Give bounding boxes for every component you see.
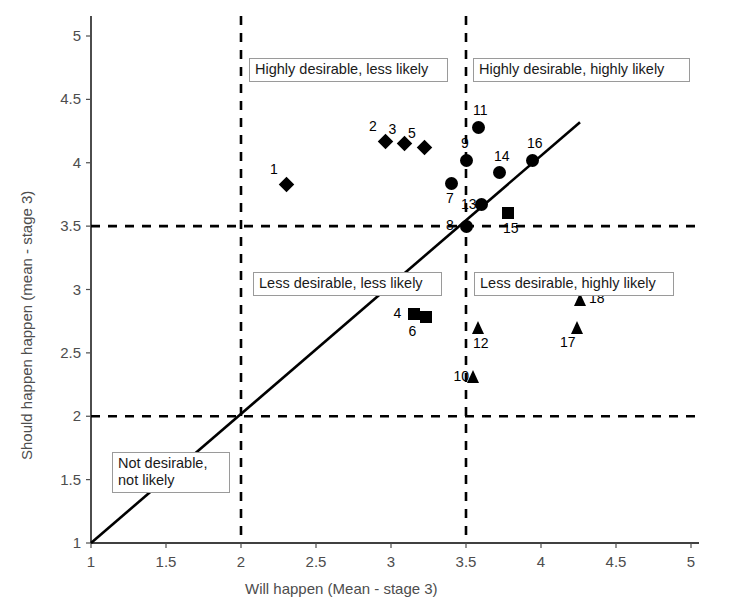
x-tick-label: 3.5	[436, 553, 496, 570]
data-point-label: 8	[446, 217, 454, 233]
quadrant-label-highly-desirable-less-likely: Highly desirable, less likely	[249, 58, 448, 82]
quadrant-label-less-desirable-less-likely: Less desirable, less likely	[253, 272, 442, 296]
data-point-square	[420, 311, 432, 323]
data-point-label: 17	[560, 334, 576, 350]
data-point-circle	[445, 177, 458, 190]
x-tick-label: 1	[61, 553, 121, 570]
quadrant-label-less-desirable-highly-likely: Less desirable, highly likely	[474, 272, 674, 296]
data-point-label: 15	[503, 220, 519, 236]
data-point-label: 2	[369, 118, 377, 134]
x-tick-label: 2	[211, 553, 271, 570]
data-point-label: 16	[527, 135, 543, 151]
data-point-label: 14	[494, 148, 510, 164]
x-tick-label: 4.5	[586, 553, 646, 570]
data-point-circle	[526, 154, 539, 167]
plot-canvas	[0, 0, 735, 612]
data-point-label: 1	[270, 161, 278, 177]
quadrant-label-highly-desirable-highly-likely: Highly desirable, highly likely	[473, 58, 690, 82]
data-point-triangle	[472, 321, 484, 334]
data-point-triangle	[571, 321, 583, 334]
y-tick-label: 5	[25, 27, 81, 44]
data-point-circle	[472, 121, 485, 134]
x-tick-label: 4	[511, 553, 571, 570]
data-point-circle	[460, 220, 473, 233]
data-point-label: 6	[409, 323, 417, 339]
x-tick-label: 5	[661, 553, 721, 570]
x-axis-title: Will happen (Mean - stage 3)	[245, 580, 438, 597]
y-tick-label: 1	[25, 534, 81, 551]
y-tick-label: 4	[25, 154, 81, 171]
data-point-label: 3	[389, 121, 397, 137]
quadrant-label-not-desirable-not-likely: Not desirable, not likely	[112, 452, 230, 493]
y-axis-title: Should happen happen (mean - stage 3)	[18, 191, 35, 460]
y-tick-label: 4.5	[25, 90, 81, 107]
data-point-label: 5	[408, 125, 416, 141]
data-point-square	[408, 308, 420, 320]
x-tick-label: 3	[361, 553, 421, 570]
data-point-circle	[460, 154, 473, 167]
scatter-chart: 11.522.533.544.5511.522.533.544.55 12345…	[0, 0, 735, 612]
data-point-label: 10	[454, 368, 470, 384]
x-tick-label: 1.5	[136, 553, 196, 570]
data-point-label: 7	[446, 190, 454, 206]
data-point-label: 13	[461, 196, 477, 212]
data-point-label: 4	[394, 305, 402, 321]
data-point-square	[502, 207, 514, 219]
x-tick-label: 2.5	[286, 553, 346, 570]
data-point-label: 11	[473, 102, 488, 118]
data-point-label: 12	[473, 335, 489, 351]
data-point-label: 9	[461, 135, 469, 151]
y-tick-label: 1.5	[25, 471, 81, 488]
data-point-circle	[493, 166, 506, 179]
